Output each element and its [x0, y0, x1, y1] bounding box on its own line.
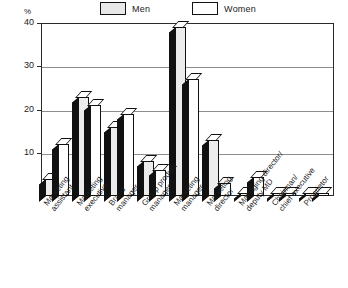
bar-group	[208, 23, 241, 196]
bar-chart: Men Women % 10203040 MarketingassistantM…	[0, 0, 348, 288]
y-tick-10: 10	[14, 147, 34, 157]
bar-series-layer	[41, 23, 334, 196]
y-tick-40: 40	[14, 17, 34, 27]
legend-label-women: Women	[224, 4, 256, 14]
women-swatch-icon	[192, 2, 218, 15]
x-axis-category-labels: MarketingassistantMarketingexecutiveBran…	[0, 198, 348, 288]
y-axis-unit-label: %	[24, 7, 31, 16]
legend-entry-men: Men	[100, 2, 150, 15]
y-tick-30: 30	[14, 60, 34, 70]
chart-legend: Men Women	[100, 2, 256, 15]
legend-label-men: Men	[132, 4, 150, 14]
legend-entry-women: Women	[192, 2, 256, 15]
men-swatch-icon	[100, 2, 126, 15]
y-tick-20: 20	[14, 104, 34, 114]
